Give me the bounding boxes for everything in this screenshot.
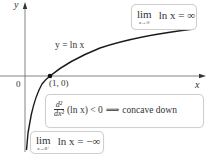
lim-expression: ln x = −∞ <box>58 135 101 147</box>
point-label: (1, 0) <box>49 79 69 88</box>
concavity-expression: (ln x) < 0 <box>67 105 103 115</box>
limit-infinity-box: lim x→∞ ln x = ∞ <box>131 4 197 30</box>
y-axis-arrow-icon <box>23 2 27 9</box>
implies-arrow: ⟹ <box>106 104 120 115</box>
origin-label: 0 <box>16 80 21 89</box>
second-derivative-fraction: d² dx² <box>54 101 64 118</box>
limit-zero-box: lim x→0⁺ ln x = −∞ <box>30 131 104 154</box>
lim-subscript: x→0⁺ <box>36 146 51 151</box>
lim-subscript: x→∞ <box>137 20 152 25</box>
x-axis-arrow-icon <box>199 74 206 78</box>
lim-operator: lim x→∞ <box>137 9 152 25</box>
concavity-box: d² dx² (ln x) < 0 ⟹ concave down <box>45 94 204 128</box>
x-axis-label: x <box>195 80 199 90</box>
concavity-conclusion: concave down <box>122 105 177 115</box>
lim-expression: ln x = ∞ <box>159 9 195 21</box>
y-axis-label: y <box>14 0 18 10</box>
curve-label: y = ln x <box>55 41 84 51</box>
lim-operator: lim x→0⁺ <box>36 135 51 151</box>
